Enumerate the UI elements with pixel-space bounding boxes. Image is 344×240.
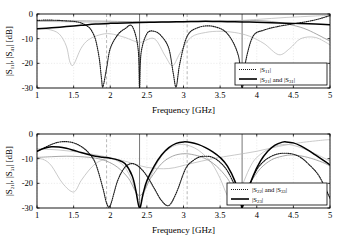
- xtick-label: 4.5: [288, 90, 299, 100]
- xtick-label: 1.5: [68, 210, 79, 220]
- xtick-label: 3.5: [215, 90, 226, 100]
- svg-text:|S21|, |S31| [dB]: |S21|, |S31| [dB]: [4, 146, 15, 196]
- legend: |S22| and |S33||S23|: [227, 183, 327, 205]
- x-axis-title: Frequency [GHz]: [152, 105, 215, 115]
- xtick-label: 4.5: [288, 210, 299, 220]
- ytick-label: -30: [22, 203, 33, 213]
- xtick-label: 2.5: [142, 90, 153, 100]
- xtick-label: 2.5: [142, 210, 153, 220]
- xtick-label: 3: [181, 210, 185, 220]
- xtick-label: 3: [181, 90, 185, 100]
- xtick-label: 5: [328, 210, 332, 220]
- y-axis-title: |S11|, |S41| [dB]: [4, 26, 15, 76]
- figure-two-panel-sparameters: 11.522.533.544.550-10-20-30Frequency [GH…: [0, 0, 344, 240]
- xtick-label: 4: [255, 210, 260, 220]
- ytick-label: -30: [22, 83, 33, 93]
- xtick-label: 2: [108, 90, 112, 100]
- y-axis-title: |S21|, |S31| [dB]: [4, 146, 15, 196]
- legend: |S11||S21| and |S31|: [235, 63, 327, 85]
- xtick-label: 4: [255, 90, 260, 100]
- xtick-label: 2: [108, 210, 112, 220]
- chart-panel-top: 11.522.533.544.550-10-20-30Frequency [GH…: [0, 0, 344, 120]
- ytick-label: 0: [29, 129, 33, 139]
- ytick-label: -20: [22, 58, 33, 68]
- xtick-label: 1.5: [68, 90, 79, 100]
- ytick-label: -20: [22, 178, 33, 188]
- xtick-label: 5: [328, 90, 332, 100]
- xtick-label: 1: [35, 90, 39, 100]
- ytick-label: -10: [22, 154, 33, 164]
- svg-text:|S11|, |S41| [dB]: |S11|, |S41| [dB]: [4, 26, 15, 76]
- x-axis-title: Frequency [GHz]: [152, 225, 215, 235]
- ytick-label: 0: [29, 9, 33, 19]
- ytick-label: -10: [22, 34, 33, 44]
- chart-panel-bottom: 11.522.533.544.550-10-20-30Frequency [GH…: [0, 120, 344, 240]
- xtick-label: 1: [35, 210, 39, 220]
- xtick-label: 3.5: [215, 210, 226, 220]
